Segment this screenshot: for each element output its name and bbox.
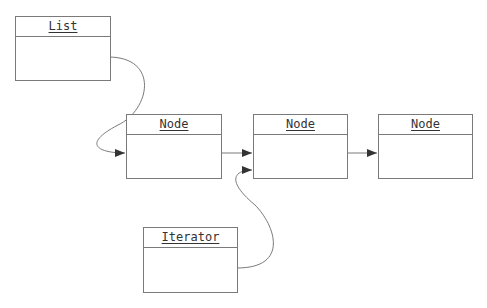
node-box-2-title: Node — [254, 115, 347, 135]
list-box-title: List — [16, 17, 110, 37]
node-box-1-title: Node — [127, 115, 221, 135]
node-box-3-title: Node — [379, 115, 472, 135]
iterator-box-title: Iterator — [144, 228, 237, 248]
node-box-2: Node — [253, 114, 348, 179]
list-box: List — [15, 16, 111, 81]
iterator-box: Iterator — [143, 227, 238, 293]
node-box-1: Node — [126, 114, 222, 179]
node-box-3: Node — [378, 114, 473, 179]
